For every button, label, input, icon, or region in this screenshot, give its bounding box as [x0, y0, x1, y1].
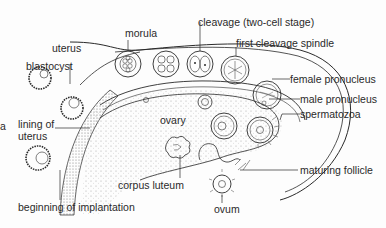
- label-cleavage: cleavage (two-cell stage): [198, 16, 314, 28]
- label-corpus-luteum: corpus luteum: [118, 179, 184, 191]
- label-first-cleavage-spindle: first cleavage spindle: [236, 37, 334, 49]
- label-ovary: ovary: [160, 114, 186, 126]
- label-maturing-follicle: maturing follicle: [300, 164, 373, 176]
- label-edge-fragment: a: [0, 120, 6, 132]
- label-lining-line2: uterus: [18, 130, 47, 142]
- implanting-blastocyst-icon: [26, 146, 50, 170]
- label-lining-line1: lining of: [18, 118, 54, 130]
- cleavage-spindle-icon: [221, 56, 249, 84]
- label-beginning-of-implantation: beginning of implantation: [18, 201, 135, 213]
- label-male-pronucleus: male pronucleus: [300, 93, 377, 105]
- label-ovum: ovum: [214, 203, 240, 215]
- blastocyst-2-icon: [61, 97, 83, 119]
- label-morula: morula: [125, 27, 157, 39]
- ovum-icon: [209, 169, 235, 197]
- label-spermatozoa: spermatozoa: [300, 108, 361, 120]
- four-cell-stage-icon: [153, 51, 179, 77]
- label-uterus: uterus: [52, 42, 81, 54]
- two-cell-stage-icon: [187, 51, 213, 77]
- diagram-canvas: morula cleavage (two-cell stage) first c…: [0, 0, 386, 228]
- label-blastocyst: blastocyst: [26, 60, 73, 72]
- ovary-body: [80, 90, 282, 215]
- label-female-pronucleus: female pronucleus: [290, 73, 376, 85]
